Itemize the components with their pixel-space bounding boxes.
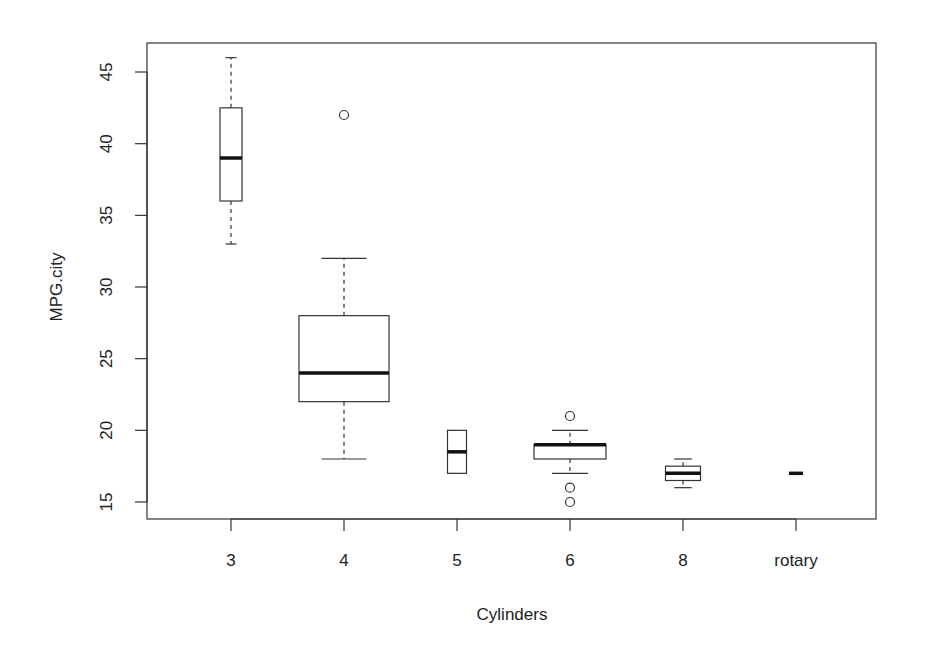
- x-axis-label: Cylinders: [477, 605, 548, 624]
- y-tick-label: 20: [97, 421, 116, 440]
- y-tick-label: 35: [97, 206, 116, 225]
- iqr-box: [220, 108, 242, 201]
- x-tick-label: 5: [452, 551, 461, 570]
- y-tick-label: 40: [97, 134, 116, 153]
- x-tick-label: 3: [226, 551, 235, 570]
- x-tick-label: 8: [678, 551, 687, 570]
- iqr-box: [534, 445, 606, 459]
- y-tick-label: 15: [97, 493, 116, 512]
- y-tick-label: 45: [97, 63, 116, 82]
- x-tick-label: rotary: [774, 551, 818, 570]
- boxplot-chart: 15202530354045 34568rotary Cylinders MPG…: [0, 0, 926, 657]
- y-tick-label: 25: [97, 349, 116, 368]
- x-tick-label: 6: [565, 551, 574, 570]
- x-tick-label: 4: [339, 551, 348, 570]
- y-tick-label: 30: [97, 278, 116, 297]
- y-axis-label: MPG.city: [47, 252, 66, 321]
- iqr-box: [299, 316, 389, 402]
- box-5: [448, 430, 467, 473]
